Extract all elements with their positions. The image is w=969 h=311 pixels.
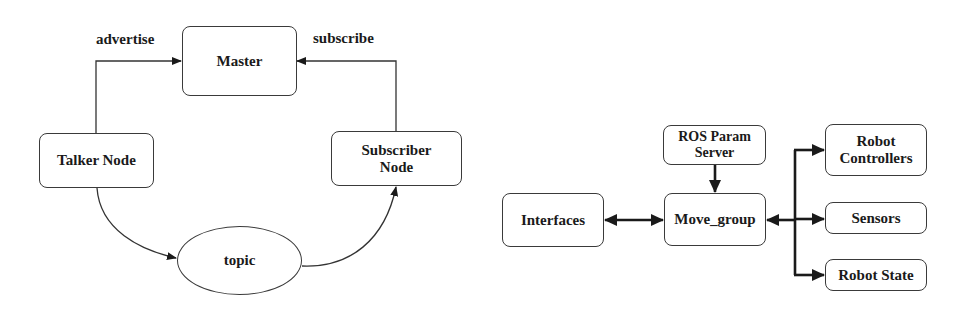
topic-node-label: topic xyxy=(224,252,256,269)
subscribe-label: subscribe xyxy=(313,30,374,47)
sensors-node: Sensors xyxy=(825,202,927,234)
sensors-label: Sensors xyxy=(851,210,900,227)
param-server-node: ROS Param Server xyxy=(663,125,766,165)
talker-node-label: Talker Node xyxy=(57,152,136,169)
subscribe-edge xyxy=(297,61,396,131)
controllers-label: Robot Controllers xyxy=(839,133,912,167)
subscriber-node-label: Subscriber Node xyxy=(361,142,431,176)
move-group-label: Move_group xyxy=(674,211,755,228)
advertise-label: advertise xyxy=(96,31,154,48)
move-group-node: Move_group xyxy=(664,193,766,246)
advertise-edge xyxy=(96,61,181,133)
talker-node: Talker Node xyxy=(39,133,154,188)
subscriber-node: Subscriber Node xyxy=(331,131,462,186)
master-node-label: Master xyxy=(217,53,263,70)
publish-edge xyxy=(97,188,176,258)
controllers-node: Robot Controllers xyxy=(825,124,927,176)
deliver-edge xyxy=(302,187,396,266)
master-node: Master xyxy=(182,26,297,96)
param-server-label: ROS Param Server xyxy=(678,129,751,161)
interfaces-node: Interfaces xyxy=(502,193,604,247)
interfaces-label: Interfaces xyxy=(521,212,585,229)
robot-state-node: Robot State xyxy=(825,259,927,291)
robot-state-label: Robot State xyxy=(838,267,913,284)
topic-node: topic xyxy=(177,226,302,295)
